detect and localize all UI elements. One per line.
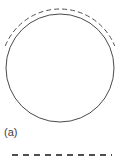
panel-label: (a) xyxy=(4,126,17,139)
solid-circle-outline xyxy=(6,14,114,122)
figure-drawing-canvas xyxy=(0,0,124,164)
figure-panel-a: (a) xyxy=(0,0,124,164)
dashed-arc-outline xyxy=(5,9,114,46)
